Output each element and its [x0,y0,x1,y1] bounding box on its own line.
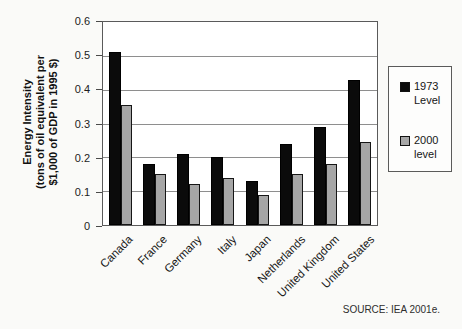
bar-group-germany [172,22,206,225]
source-note: SOURCE: IEA 2001e. [343,304,440,315]
bar-2000-level-germany [189,184,200,225]
x-label-japan: Japan [242,233,273,264]
bar-1973-level-united-kingdom [314,127,326,225]
y-tick-label-0.4: 0.4 [60,83,90,95]
y-tick-label-0.6: 0.6 [60,15,90,27]
y-tick-label-0.1: 0.1 [60,186,90,198]
bar-1973-level-netherlands [280,144,292,225]
bar-2000-level-netherlands [292,174,303,225]
y-axis-title-line2: (tons of oil equivalent per [34,55,47,189]
y-axis-title: Energy Intensity (tons of oil equivalent… [21,55,60,189]
legend: 1973 Level 2000 level [388,66,452,172]
bar-1973-level-france [143,164,155,225]
bar-2000-level-canada [121,105,132,225]
bar-group-united-kingdom [309,22,343,225]
bar-1973-level-canada [109,52,121,225]
bar-group-canada [103,22,137,225]
y-axis-title-line1: Energy Intensity [21,55,34,189]
bar-group-netherlands [274,22,308,225]
x-label-germany: Germany [162,233,204,275]
bar-2000-level-italy [223,178,234,225]
legend-item-1973: 1973 Level [400,79,445,107]
x-label-italy: Italy [215,233,238,256]
legend-swatch-2000-icon [400,136,410,146]
plot-area [102,21,378,226]
legend-label-1973-line2: Level [414,94,440,106]
bar-2000-level-france [155,174,166,225]
bar-1973-level-japan [246,181,258,225]
bar-group-france [137,22,171,225]
bar-2000-level-japan [258,195,269,225]
x-label-france: France [135,233,169,267]
legend-label-2000: 2000 level [414,133,438,161]
legend-label-2000-line1: 2000 [414,134,438,146]
legend-label-2000-line2: level [414,148,437,160]
y-tick-label-0.5: 0.5 [60,49,90,61]
legend-label-1973: 1973 Level [414,79,440,107]
bar-1973-level-united-states [348,80,360,225]
x-label-canada: Canada [98,233,135,270]
bar-1973-level-italy [211,157,223,225]
y-tick-label-0.3: 0.3 [60,118,90,130]
legend-swatch-1973-icon [400,82,410,92]
bar-1973-level-germany [177,154,189,225]
bar-2000-level-united-kingdom [326,164,337,225]
bar-group-italy [206,22,240,225]
legend-item-2000: 2000 level [400,133,445,161]
y-tick-label-0: 0 [60,220,90,232]
bar-group-united-states [343,22,377,225]
y-axis: 0.60.50.40.30.20.10 [58,21,102,226]
y-tick-label-0.2: 0.2 [60,152,90,164]
legend-label-1973-line1: 1973 [414,80,438,92]
x-label-united-kingdom: United Kingdom [275,233,341,299]
bar-2000-level-united-states [360,142,371,225]
x-axis-labels: CanadaFranceGermanyItalyJapanNetherlands… [102,227,378,305]
bar-group-japan [240,22,274,225]
energy-intensity-chart: Energy Intensity (tons of oil equivalent… [0,0,462,329]
